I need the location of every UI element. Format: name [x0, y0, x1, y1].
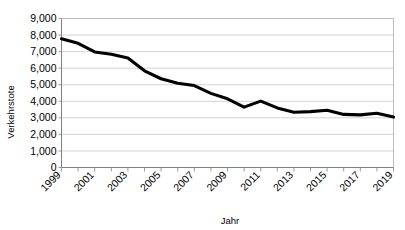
- x-axis-tick-labels: 1999200120032005200720092011201320152017…: [38, 168, 395, 193]
- y-axis-title: Verkehrstote: [5, 85, 16, 138]
- y-axis-tick-label: 3,000: [30, 111, 56, 123]
- x-axis-ticks: [62, 168, 394, 172]
- line-chart: 9,0008,0007,0006,0005,0004,0003,0002,000…: [0, 0, 405, 230]
- x-axis-tick-label: 2017: [337, 168, 362, 193]
- y-axis-tick-label: 9,000: [30, 12, 56, 24]
- y-axis-tick-label: 1,000: [30, 145, 56, 157]
- plot-frame: [62, 19, 394, 168]
- y-axis-tick-label: 5,000: [30, 78, 56, 90]
- x-axis-tick-label: 2011: [238, 168, 263, 193]
- x-axis-tick-label: 2015: [304, 168, 329, 193]
- y-axis-tick-label: 7,000: [30, 45, 56, 57]
- x-axis-tick-label: 2019: [370, 168, 395, 193]
- y-axis-tick-label: 6,000: [30, 62, 56, 74]
- data-series-verkehrstote: [62, 39, 394, 117]
- x-axis-tick-label: 1999: [38, 168, 63, 193]
- y-axis-tick-label: 8,000: [30, 29, 56, 41]
- chart-container: 9,0008,0007,0006,0005,0004,0003,0002,000…: [0, 0, 405, 230]
- x-axis-tick-label: 2007: [171, 168, 196, 193]
- x-axis-tick-label: 2005: [138, 168, 163, 193]
- x-axis-title: Jahr: [221, 215, 239, 226]
- y-axis-tick-label: 2,000: [30, 128, 56, 140]
- x-axis-tick-label: 2001: [71, 168, 96, 193]
- x-axis-tick-label: 2003: [104, 168, 129, 193]
- gridlines: [62, 19, 394, 168]
- x-axis-tick-label: 2013: [270, 168, 295, 193]
- y-axis-tick-labels: 9,0008,0007,0006,0005,0004,0003,0002,000…: [30, 12, 61, 173]
- y-axis-tick-label: 4,000: [30, 95, 56, 107]
- x-axis-tick-label: 2009: [204, 168, 229, 193]
